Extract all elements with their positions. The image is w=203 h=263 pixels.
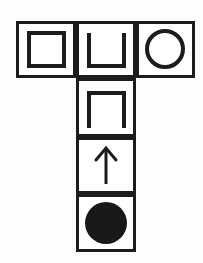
cell-stem-2[interactable] bbox=[78, 139, 135, 193]
diagram-canvas bbox=[0, 0, 203, 263]
cell-stem-3[interactable] bbox=[78, 196, 135, 251]
stem-column bbox=[78, 80, 135, 251]
symbol-grid-diagram bbox=[0, 0, 203, 263]
cell-top-right[interactable] bbox=[138, 23, 194, 77]
cell-stem-1[interactable] bbox=[78, 80, 135, 136]
top-row bbox=[18, 23, 194, 77]
filled-circle-icon bbox=[85, 202, 127, 244]
cell-top-middle[interactable] bbox=[78, 23, 135, 77]
cell-top-left[interactable] bbox=[18, 23, 75, 77]
